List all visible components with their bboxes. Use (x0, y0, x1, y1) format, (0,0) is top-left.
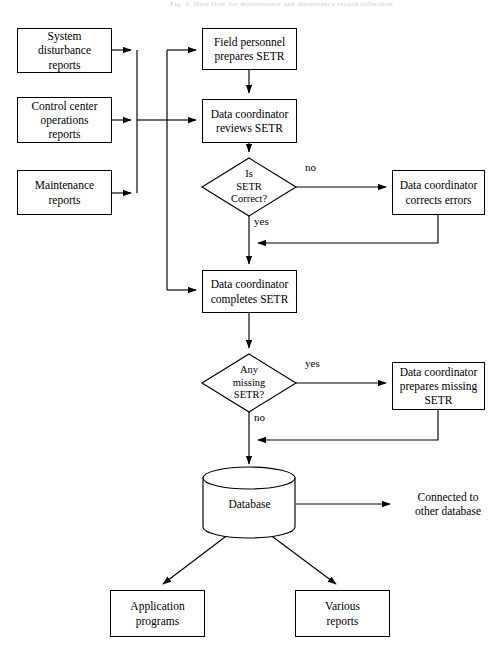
node-label: Field personnel prepares SETR (214, 35, 285, 63)
node-label: Data coordinator reviews SETR (211, 107, 289, 135)
decision-any-missing-setr-shape (202, 354, 296, 412)
edge-database-to-various-reports (269, 534, 336, 584)
branch-label-decision2-no: no (254, 411, 265, 423)
node-label: Data coordinator corrects errors (400, 178, 478, 206)
flowchart-canvas: Fig. 4. Data flow for maintenance and di… (0, 0, 500, 654)
node-field-personnel-prepares-setr[interactable]: Field personnel prepares SETR (202, 28, 297, 70)
node-label: Application programs (130, 599, 184, 627)
node-connected-to-other-database: Connected to other database (400, 487, 496, 521)
node-label: Control center operations reports (31, 99, 97, 141)
edge-corrects-loopback (258, 215, 438, 243)
database-cylinder-shape (203, 467, 295, 538)
node-data-coordinator-corrects-errors[interactable]: Data coordinator corrects errors (392, 170, 485, 215)
node-various-reports[interactable]: Various reports (295, 590, 390, 637)
node-label: Maintenance reports (35, 178, 94, 206)
node-system-disturbance-reports[interactable]: System disturbance reports (17, 28, 112, 73)
branch-label-decision1-no: no (305, 161, 316, 173)
node-label: Data coordinator prepares missing SETR (400, 365, 478, 407)
node-label: Connected to other database (415, 490, 481, 518)
node-maintenance-reports[interactable]: Maintenance reports (17, 170, 112, 215)
edge-database-to-application-programs (163, 534, 229, 584)
node-control-center-operations-reports[interactable]: Control center operations reports (17, 97, 112, 143)
branch-label-decision2-yes: yes (305, 357, 320, 369)
node-label: Various reports (325, 599, 360, 627)
node-data-coordinator-completes-setr[interactable]: Data coordinator completes SETR (202, 270, 297, 313)
node-data-coordinator-reviews-setr[interactable]: Data coordinator reviews SETR (202, 99, 297, 143)
node-data-coordinator-prepares-missing-setr[interactable]: Data coordinator prepares missing SETR (392, 362, 485, 410)
node-label: System disturbance reports (38, 29, 91, 71)
edge-prepares-loopback (258, 410, 438, 440)
branch-label-decision1-yes: yes (254, 215, 269, 227)
node-application-programs[interactable]: Application programs (110, 590, 205, 637)
decision-is-setr-correct-shape (202, 158, 296, 216)
node-label: Data coordinator completes SETR (211, 277, 289, 305)
